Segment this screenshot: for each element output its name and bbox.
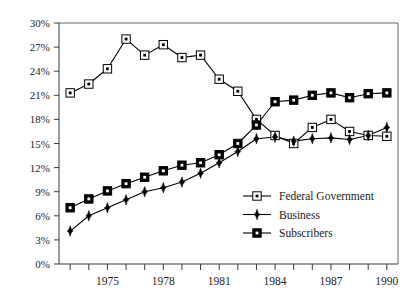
marker-dot-subscribers-1989: [367, 92, 370, 95]
marker-dot-subscribers-1983: [255, 124, 258, 127]
marker-dot-subscribers-1977: [143, 176, 146, 179]
marker-dot-federal-government-1978: [162, 43, 165, 46]
x-tick-label: 1987: [319, 275, 342, 287]
marker-dot-federal-government-1988: [348, 130, 351, 133]
plot-frame: [59, 23, 398, 264]
marker-dot-subscribers-1990: [385, 91, 388, 94]
marker-dot-subscribers-1980: [199, 161, 202, 164]
legend-label-1: Business: [279, 209, 320, 221]
x-tick-label: 1975: [96, 275, 119, 287]
marker-dot-legend-2: [256, 232, 259, 235]
marker-dot-federal-government-1973: [69, 91, 72, 94]
x-tick-label: 1981: [208, 275, 231, 287]
marker-business-1975: [105, 203, 111, 213]
marker-dot-subscribers-1976: [125, 182, 128, 185]
marker-dot-subscribers-1985: [292, 99, 295, 102]
marker-dot-federal-government-1987: [330, 118, 333, 121]
marker-business-1983: [254, 133, 260, 143]
y-tick-label: 21%: [30, 89, 50, 101]
marker-dot-federal-government-1986: [311, 126, 314, 129]
marker-business-1973: [67, 226, 73, 236]
marker-dot-legend-0: [256, 195, 259, 198]
legend-label-0: Federal Government: [279, 190, 375, 202]
marker-dot-subscribers-1981: [218, 153, 221, 156]
series-line-business: [70, 127, 387, 231]
y-tick-label: 3%: [35, 234, 50, 246]
marker-dot-federal-government-1974: [87, 83, 90, 86]
marker-business-1978: [160, 182, 166, 192]
y-tick-label: 15%: [30, 138, 50, 150]
y-tick-label: 6%: [35, 210, 50, 222]
x-tick-label: 1990: [375, 275, 398, 287]
marker-business-1979: [179, 177, 185, 187]
marker-dot-subscribers-1988: [348, 96, 351, 99]
marker-dot-subscribers-1975: [106, 189, 109, 192]
marker-dot-subscribers-1987: [330, 91, 333, 94]
marker-dot-federal-government-1980: [199, 54, 202, 57]
marker-business-1974: [86, 211, 92, 221]
x-tick-label: 1978: [152, 275, 175, 287]
marker-dot-federal-government-1976: [125, 38, 128, 41]
y-tick-label: 0%: [35, 258, 50, 270]
marker-business-1990: [384, 122, 390, 132]
marker-dot-federal-government-1981: [218, 78, 221, 81]
y-tick-label: 12%: [30, 162, 50, 174]
marker-dot-federal-government-1982: [236, 90, 239, 93]
x-tick-label: 1984: [264, 275, 287, 287]
legend-label-2: Subscribers: [279, 227, 333, 239]
y-tick-label: 9%: [35, 186, 50, 198]
marker-dot-subscribers-1982: [236, 142, 239, 145]
marker-legend-1: [254, 209, 260, 219]
plot-axes: [59, 23, 398, 264]
marker-business-1980: [198, 168, 204, 178]
y-tick-label: 30%: [30, 17, 50, 29]
marker-business-1987: [328, 133, 334, 143]
marker-dot-federal-government-1975: [106, 67, 109, 70]
marker-dot-federal-government-1979: [181, 56, 184, 59]
line-chart: 0%3%6%9%12%15%18%21%24%27%30%19751978198…: [0, 0, 415, 304]
chart-container: 0%3%6%9%12%15%18%21%24%27%30%19751978198…: [0, 0, 415, 304]
series-line-federal-government: [70, 39, 387, 143]
marker-dot-federal-government-1977: [143, 54, 146, 57]
marker-dot-subscribers-1974: [87, 198, 90, 201]
marker-dot-federal-government-1990: [385, 135, 388, 138]
marker-business-1986: [309, 133, 315, 143]
y-tick-label: 18%: [30, 113, 50, 125]
marker-dot-subscribers-1978: [162, 169, 165, 172]
y-tick-label: 24%: [30, 65, 50, 77]
marker-dot-subscribers-1984: [274, 100, 277, 103]
marker-business-1976: [123, 195, 129, 205]
marker-dot-subscribers-1986: [311, 94, 314, 97]
marker-dot-subscribers-1973: [69, 206, 72, 209]
marker-dot-subscribers-1979: [181, 164, 184, 167]
y-tick-label: 27%: [30, 41, 50, 53]
marker-business-1977: [142, 187, 148, 197]
